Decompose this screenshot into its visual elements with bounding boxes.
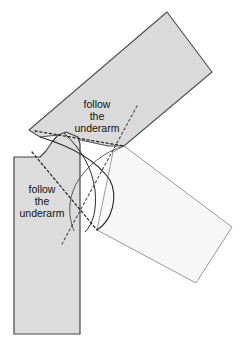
- lower-underarm-label-line-2: the: [35, 195, 50, 207]
- bodice-front-piece: [14, 132, 80, 334]
- lower-underarm-label-line-1: follow: [29, 183, 56, 195]
- pattern-svg: followtheunderarmfollowtheunderarm: [0, 0, 242, 344]
- upper-underarm-label-line-3: underarm: [75, 122, 120, 134]
- pattern-diagram: followtheunderarmfollowtheunderarm: [0, 0, 242, 344]
- lower-underarm-label-line-3: underarm: [20, 207, 65, 219]
- upper-underarm-label-line-2: the: [90, 110, 105, 122]
- upper-underarm-label-line-1: follow: [84, 98, 111, 110]
